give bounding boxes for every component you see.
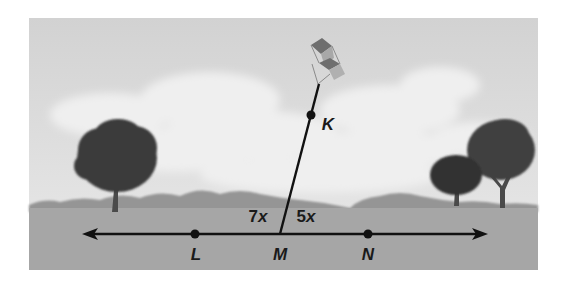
point-n bbox=[364, 230, 373, 239]
label-l: L bbox=[191, 246, 201, 263]
label-n: N bbox=[362, 246, 374, 263]
angle-kmn-var: x bbox=[306, 207, 315, 226]
point-l bbox=[191, 230, 200, 239]
kite-angle-figure: L M N K 7x 5x bbox=[0, 0, 573, 289]
angle-label-lmk: 7x bbox=[249, 208, 268, 225]
angle-lmk-var: x bbox=[258, 207, 267, 226]
angle-label-kmn: 5x bbox=[297, 208, 316, 225]
label-k: K bbox=[322, 116, 334, 133]
point-k bbox=[307, 111, 316, 120]
label-m: M bbox=[273, 246, 287, 263]
